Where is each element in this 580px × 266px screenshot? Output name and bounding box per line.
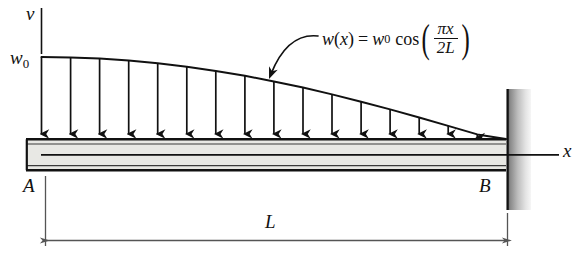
load-arrows [42,57,478,138]
equation-denominator: 2L [434,38,458,57]
equation-numerator: πx [435,20,457,38]
point-a-label: A [23,176,35,195]
equation-amplitude: w [372,30,384,48]
v-axis-label: v [26,4,34,23]
beam [26,139,506,171]
load-equation: w(x)=w0cos( πx 2L ) [322,20,472,58]
equation-paren-open: ( [422,22,430,56]
beam-load-diagram: v w0 A B x L w(x)=w0cos( πx 2L ) [0,0,580,266]
fixed-wall-support [507,89,531,210]
equation-paren-close: ) [461,22,469,56]
load-magnitude-label: w0 [10,48,29,71]
x-axis-label: x [563,141,571,160]
load-magnitude-subscript: 0 [23,56,29,71]
equation-trig: cos [395,30,419,48]
equation-lhs-fn: w [322,30,334,48]
length-label: L [265,212,276,231]
equation-leader-arrow [271,36,318,74]
equation-amplitude-subscript: 0 [384,33,390,45]
diagram-graphics [0,0,580,266]
equation-equals: = [358,30,368,48]
load-magnitude-letter: w [10,47,23,68]
equation-lhs-arg: (x) [334,30,354,48]
equation-fraction: πx 2L [434,20,458,58]
point-b-label: B [479,176,491,195]
length-dimension-line [46,176,508,246]
